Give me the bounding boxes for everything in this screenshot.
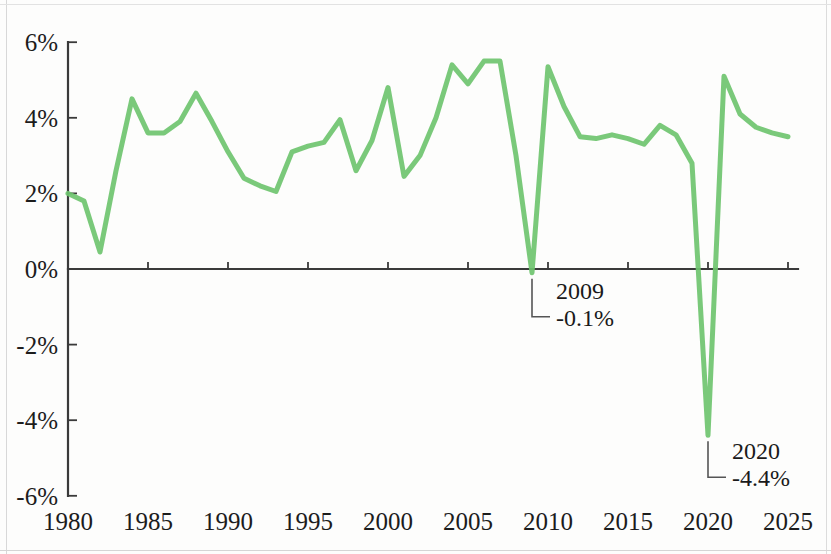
annotation-year-label: 2020 <box>732 438 780 464</box>
annotation-value-label: -0.1% <box>556 305 614 331</box>
line-chart-svg: 6%4%2%0%-2%-4%-6% 1980198519901995200020… <box>0 0 831 554</box>
x-axis-tick-labels: 1980198519901995200020052010201520202025 <box>43 508 813 535</box>
x-tick-label: 1990 <box>203 508 253 535</box>
annotation-leader-line <box>708 441 726 477</box>
y-tick-label: -2% <box>16 332 58 359</box>
x-tick-label: 2015 <box>603 508 653 535</box>
x-tick-label: 1995 <box>283 508 333 535</box>
annotation-year-label: 2009 <box>556 278 604 304</box>
y-axis-tick-labels: 6%4%2%0%-2%-4%-6% <box>16 29 58 510</box>
data-series-line <box>68 61 788 435</box>
x-tick-label: 2025 <box>763 508 813 535</box>
x-tick-label: 2020 <box>683 508 733 535</box>
y-tick-label: 6% <box>25 29 58 56</box>
x-tick-label: 2005 <box>443 508 493 535</box>
y-tick-label: -6% <box>16 483 58 510</box>
x-tick-label: 1980 <box>43 508 93 535</box>
x-tick-label: 1985 <box>123 508 173 535</box>
y-tick-label: 2% <box>25 180 58 207</box>
y-tick-label: 0% <box>25 256 58 283</box>
chart-container: 6%4%2%0%-2%-4%-6% 1980198519901995200020… <box>0 0 831 554</box>
annotations: 2009-0.1%2020-4.4% <box>532 278 790 492</box>
y-tick-label: -4% <box>16 407 58 434</box>
annotation-leader-line <box>532 279 550 317</box>
annotation-value-label: -4.4% <box>732 465 790 491</box>
y-tick-label: 4% <box>25 105 58 132</box>
x-tick-label: 2010 <box>523 508 573 535</box>
x-tick-label: 2000 <box>363 508 413 535</box>
